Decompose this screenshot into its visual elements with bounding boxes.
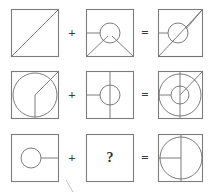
- row-3: + ? =: [12, 135, 203, 182]
- row-2: + =: [12, 72, 203, 119]
- operator-plus: +: [68, 87, 75, 102]
- puzzle-container: + =: [0, 0, 210, 194]
- row-3-operand-a: [12, 135, 59, 182]
- row-3-result: [159, 135, 203, 182]
- question-mark: ?: [107, 150, 114, 165]
- row-1-result: [159, 10, 203, 57]
- row-1: + =: [12, 10, 203, 57]
- puzzle-diagram: + =: [0, 0, 210, 194]
- operator-equals: =: [141, 87, 148, 102]
- row-2-operand-b: [87, 72, 134, 119]
- operator-plus: +: [68, 150, 75, 165]
- scan-artifact-mark: [66, 180, 73, 192]
- row-1-operand-a: [12, 10, 59, 57]
- operator-equals: =: [141, 150, 148, 165]
- row-2-operand-a: [12, 72, 59, 119]
- operator-equals: =: [141, 25, 148, 40]
- row-1-operand-b: [87, 10, 134, 57]
- operator-plus: +: [68, 25, 75, 40]
- row-2-result: [159, 72, 203, 119]
- row-3-operand-b-unknown[interactable]: ?: [87, 135, 134, 182]
